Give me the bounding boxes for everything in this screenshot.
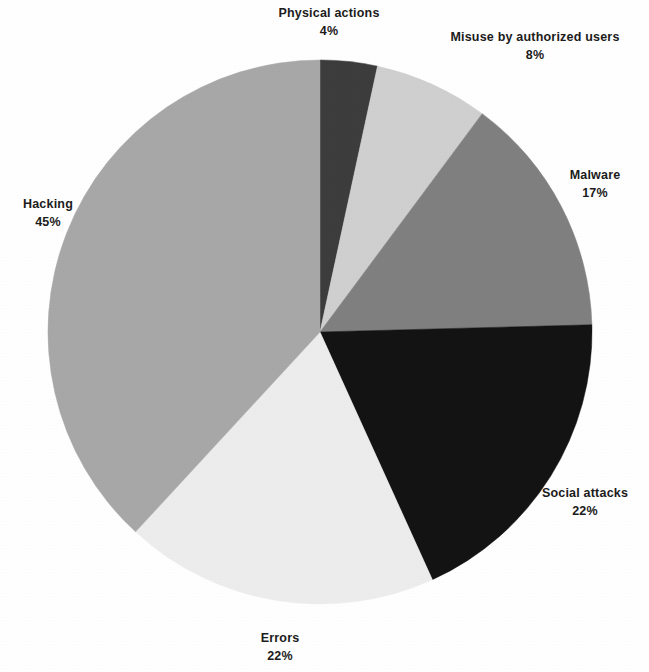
pie-label-misuse-by-authorized-users-name: Misuse by authorized users <box>424 28 646 46</box>
pie-label-social-attacks: Social attacks 22% <box>525 484 645 520</box>
pie-label-errors-value: 22% <box>200 647 360 665</box>
pie-label-malware: Malware 17% <box>543 166 647 202</box>
pie-label-hacking-name: Hacking <box>2 195 94 213</box>
pie-label-physical-actions-value: 4% <box>229 22 429 40</box>
pie-label-malware-value: 17% <box>543 184 647 202</box>
pie-label-social-attacks-value: 22% <box>525 502 645 520</box>
pie-label-hacking: Hacking 45% <box>2 195 94 231</box>
pie-chart-svg <box>0 0 649 672</box>
pie-label-errors: Errors 22% <box>200 629 360 665</box>
pie-label-malware-name: Malware <box>543 166 647 184</box>
pie-label-social-attacks-name: Social attacks <box>525 484 645 502</box>
pie-label-misuse-by-authorized-users: Misuse by authorized users 8% <box>424 28 646 64</box>
pie-label-errors-name: Errors <box>200 629 360 647</box>
pie-chart: Physical actions 4% Misuse by authorized… <box>0 0 649 672</box>
pie-chart-page: Physical actions 4% Misuse by authorized… <box>0 0 649 672</box>
pie-slice-group <box>48 60 592 604</box>
pie-label-physical-actions: Physical actions 4% <box>229 4 429 40</box>
pie-label-physical-actions-name: Physical actions <box>229 4 429 22</box>
pie-label-misuse-by-authorized-users-value: 8% <box>424 46 646 64</box>
pie-label-hacking-value: 45% <box>2 213 94 231</box>
